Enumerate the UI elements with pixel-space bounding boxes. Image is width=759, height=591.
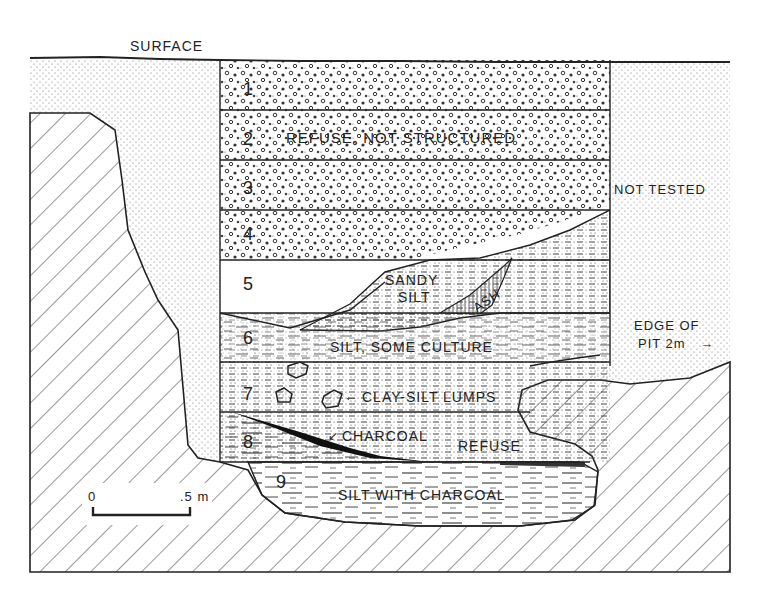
layer-6-number: 6 [243, 328, 254, 348]
edge-of-pit-label: EDGE OF [634, 318, 700, 333]
lumps-arrow-icon: ← [344, 388, 359, 404]
layer-2-number: 2 [243, 129, 254, 149]
layer-3-number: 3 [243, 178, 254, 198]
right-arrow-icon: → [700, 336, 714, 351]
scale-end-label: .5 m [180, 489, 209, 504]
layer-7-label: CLAY-SILT LUMPS [362, 389, 496, 405]
charcoal-arrow-icon: ↙ [328, 429, 339, 443]
layer-4-number: 4 [243, 224, 254, 244]
not-tested-label: NOT TESTED [614, 182, 706, 197]
layer-9-label: SILT WITH CHARCOAL [338, 487, 506, 503]
stratigraphic-profile-diagram: SURFACE NOT TESTED EDGE OF PIT 2m → 1 2 … [0, 0, 759, 591]
surface-label: SURFACE [130, 38, 203, 54]
layer-8-number: 8 [243, 432, 254, 452]
layer-7-number: 7 [243, 384, 254, 404]
sandy-silt-label-2: SILT [398, 289, 431, 305]
layer-2-label: REFUSE, NOT STRUCTURED [286, 129, 516, 146]
layer-8-label: CHARCOAL [342, 428, 428, 444]
layer-1-number: 1 [243, 79, 254, 99]
scale-start-label: 0 [88, 489, 96, 504]
edge-of-pit-label-2: PIT 2m [638, 336, 686, 351]
layer-5-number: 5 [243, 274, 254, 294]
sandy-silt-label-1: SANDY [385, 272, 438, 288]
refuse-label: REFUSE [458, 438, 521, 454]
layer-6-label: SILT, SOME CULTURE [330, 339, 493, 355]
layer-9-number: 9 [276, 472, 287, 492]
